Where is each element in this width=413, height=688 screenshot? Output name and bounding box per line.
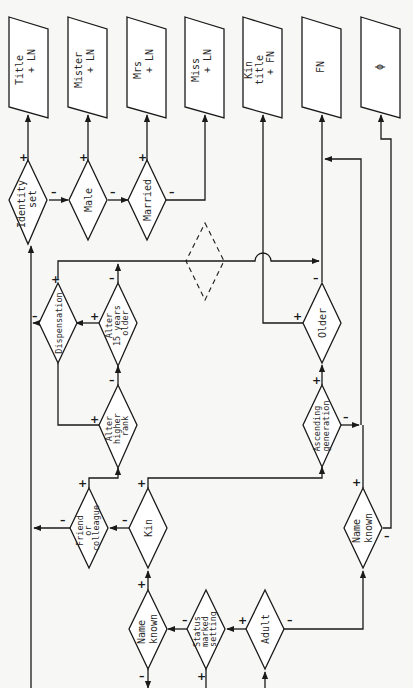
- edge-kin-to-ascending: [148, 467, 322, 488]
- svg-text:Name known: Name known: [136, 614, 159, 644]
- svg-text:–: –: [109, 272, 115, 285]
- edge-namekn-to-null: [381, 115, 391, 528]
- svg-text:+: +: [352, 476, 361, 489]
- svg-text:+: +: [312, 374, 321, 387]
- edge-older-to-kin-title: [263, 115, 303, 323]
- output-box-null: ϕ: [361, 17, 400, 118]
- edge-ascending-to-fn: [325, 159, 361, 425]
- decision-name-known: Name known: [129, 590, 167, 669]
- svg-text:Male: Male: [83, 188, 94, 212]
- svg-text:+: +: [137, 477, 146, 490]
- decision-alter-higher-rank: Alter higher rank: [99, 385, 137, 468]
- decision-dispensation: Dispensation: [39, 283, 77, 363]
- output-box-miss-ln: Miss + LN: [185, 17, 224, 118]
- flowchart-canvas: Title + LN Mister + LN Mrs + LN Miss + L…: [0, 0, 413, 688]
- svg-text:+: +: [137, 578, 146, 591]
- svg-text:–: –: [313, 272, 319, 285]
- svg-text:+: +: [238, 614, 247, 627]
- svg-text:ϕ: ϕ: [374, 64, 385, 70]
- decision-identity-set: Identity set: [9, 160, 47, 244]
- svg-text:–: –: [384, 530, 390, 543]
- svg-text:Married: Married: [142, 179, 153, 221]
- svg-text:Name known: Name known: [351, 513, 374, 543]
- output-box-title-ln: Title + LN: [9, 17, 48, 118]
- svg-text:+: +: [138, 151, 147, 164]
- output-box-fn: FN: [302, 17, 341, 118]
- edge-adult-to-namekn-right: [284, 571, 363, 629]
- decision-male: Male: [69, 160, 107, 240]
- decision-status-marked-setting: Status marked setting: [187, 590, 225, 669]
- edge-dispensation-to-fn: [58, 253, 319, 279]
- edge-friend-to-alterrank: [89, 468, 118, 488]
- svg-text:–: –: [343, 411, 349, 424]
- output-box-mrs-ln: Mrs + LN: [127, 17, 166, 118]
- decision-older: Older: [303, 283, 341, 363]
- svg-text:Status marked sett: Status marked setting: [192, 611, 218, 647]
- svg-text:–: –: [287, 614, 293, 627]
- svg-text:–: –: [122, 514, 128, 527]
- svg-text:Dispensation: Dispensation: [54, 292, 64, 353]
- svg-text:–: –: [169, 186, 175, 199]
- svg-text:FN: FN: [315, 61, 326, 73]
- svg-text:+: +: [79, 151, 88, 164]
- svg-text:–: –: [110, 186, 116, 199]
- decision-ascending-generation: Ascending generation: [303, 385, 341, 467]
- svg-text:Kin: Kin: [143, 519, 154, 537]
- svg-text:–: –: [109, 374, 115, 387]
- svg-text:+: +: [197, 670, 206, 683]
- svg-text:–: –: [182, 614, 188, 627]
- svg-text:Older: Older: [317, 308, 328, 338]
- svg-text:+: +: [19, 151, 28, 164]
- svg-text:+: +: [293, 310, 302, 323]
- svg-text:–: –: [51, 186, 57, 199]
- svg-text:Adult: Adult: [260, 614, 271, 644]
- svg-text:+: +: [78, 477, 87, 490]
- svg-text:+: +: [90, 310, 99, 323]
- output-box-mister-ln: Mister + LN: [68, 17, 107, 118]
- decision-married: Married: [128, 160, 166, 240]
- svg-text:–: –: [60, 514, 66, 527]
- svg-text:+: +: [90, 413, 99, 426]
- decision-adult: Adult: [246, 590, 284, 669]
- svg-text:+: +: [51, 273, 60, 286]
- decision-friend-or-colleague: Friend or colleague: [70, 488, 108, 568]
- svg-text:–: –: [139, 670, 145, 683]
- decision-kin: Kin: [129, 488, 167, 568]
- svg-text:–: –: [32, 310, 38, 323]
- decision-name-known-right: Name known: [344, 488, 382, 568]
- decision-alter-15-years-older: Alter 15 years older: [99, 283, 137, 366]
- output-box-kin-title-fn: Kin title + FN: [243, 17, 282, 118]
- svg-text:Ascending generation: Ascending generation: [312, 400, 331, 451]
